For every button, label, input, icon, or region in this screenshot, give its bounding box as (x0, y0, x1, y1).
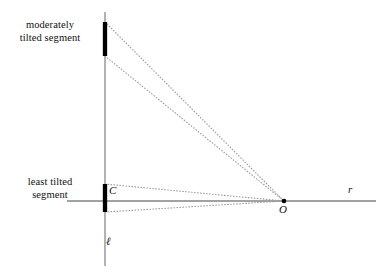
dotted-ray-moderate-bottom (105, 56, 284, 201)
dotted-ray-least-top (105, 184, 284, 201)
axis-label-ell: ℓ (106, 236, 111, 247)
diagram-canvas: moderately tilted segment least tilted s… (0, 0, 391, 273)
dotted-ray-least-bottom (105, 201, 284, 212)
dotted-ray-moderate-top (105, 22, 284, 201)
point-label-C: C (109, 185, 116, 196)
point-label-O: O (279, 204, 287, 215)
axis-label-r: r (348, 184, 352, 195)
moderately-tilted-label: moderately tilted segment (6, 18, 94, 44)
least-tilted-label: least tilted segment (6, 175, 94, 201)
